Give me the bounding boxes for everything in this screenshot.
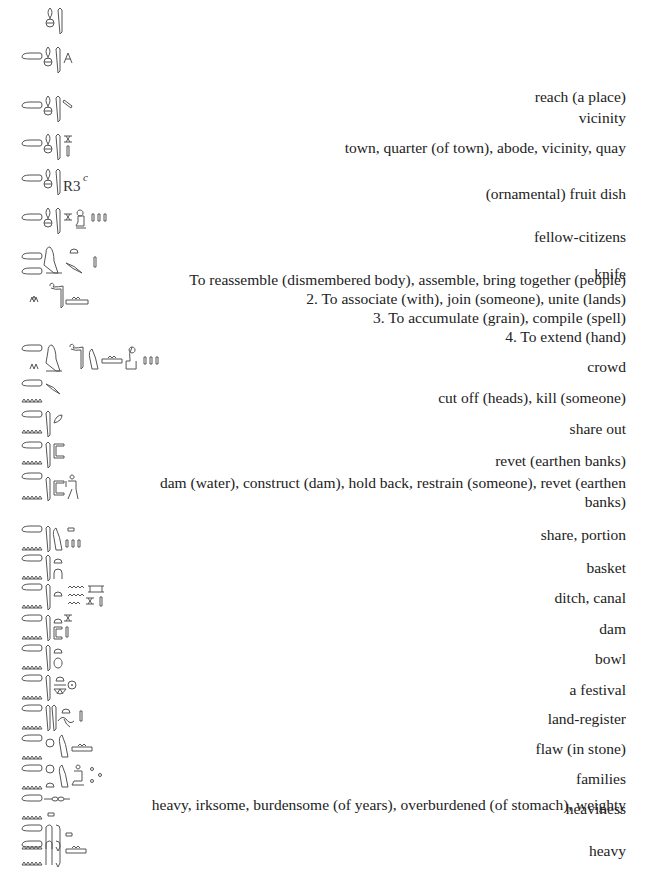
dictionary-entry: flaw (in stone) [0, 733, 647, 767]
definition-text: dam (water), construct (dam), hold back,… [152, 473, 626, 511]
hieroglyph-group [20, 613, 100, 647]
dictionary-entry [0, 6, 647, 36]
definition-text: share out [570, 419, 626, 438]
hieroglyph-canal-icon [20, 582, 120, 612]
definition-text: heavy, irksome, burdensome (of years), o… [152, 795, 626, 814]
dictionary-entry: a festival [0, 673, 647, 707]
hieroglyph-stroke-icon [20, 94, 110, 124]
definition-line: To reassemble (dismembered body), assemb… [189, 270, 626, 289]
hieroglyph-group [20, 643, 100, 677]
hieroglyph-group [20, 582, 120, 616]
hieroglyph-group [20, 266, 110, 350]
hieroglyph-legs-water-icon [20, 839, 110, 869]
dictionary-entry: heavy [0, 833, 647, 867]
definition-text: a festival [570, 680, 626, 699]
hieroglyph-portion-icon [20, 524, 110, 554]
hieroglyph-leaf-icon [20, 409, 100, 439]
hieroglyph-group [20, 793, 100, 827]
dictionary-entry: land-register [0, 703, 647, 737]
definition-text: (ornamental) fruit dish [486, 184, 626, 203]
dictionary-page: reach (a place) vicinity town, quarter (… [0, 0, 647, 873]
definition-text: revet (earthen banks) [495, 451, 626, 470]
dictionary-entry: families [0, 763, 647, 797]
hieroglyph-group [20, 132, 110, 172]
hieroglyph-group [20, 206, 140, 246]
definition-text: families [576, 769, 626, 788]
hieroglyph-town-icon [20, 132, 110, 162]
hieroglyph-group [20, 409, 100, 443]
dictionary-entry: vicinity [0, 94, 647, 134]
hieroglyph-citizens-icon [20, 206, 140, 236]
hieroglyph-group: R3 c [20, 167, 110, 207]
hieroglyph-group [20, 703, 110, 737]
hieroglyph-basket-icon [20, 553, 100, 583]
svg-text:R3: R3 [63, 178, 81, 194]
dictionary-entry: reach (a place) [0, 45, 647, 95]
definition-line: 3. To accumulate (grain), compile (spell… [189, 308, 626, 327]
dictionary-entry: dam (water), construct (dam), hold back,… [0, 471, 647, 521]
hieroglyph-crowd-icon [20, 343, 220, 375]
ankh-reed-icon [44, 6, 84, 36]
definition-text: share, portion [541, 525, 626, 544]
definition-text: flaw (in stone) [536, 739, 626, 758]
definition-text: vicinity [579, 108, 626, 127]
definition-line: 2. To associate (with), join (someone), … [189, 289, 626, 308]
dictionary-entry: share out [0, 409, 647, 443]
hieroglyph-group [20, 45, 110, 95]
definition-block: To reassemble (dismembered body), assemb… [189, 270, 626, 346]
definition-text: land-register [548, 709, 626, 728]
definition-text: dam [599, 619, 626, 638]
dictionary-entry: crowd [0, 343, 647, 383]
hieroglyph-group [20, 471, 100, 521]
hieroglyph-wall-man-icon [20, 471, 100, 505]
svg-text:c: c [83, 171, 88, 183]
dictionary-entry: To reassemble (dismembered body), assemb… [0, 266, 647, 350]
hieroglyph-rope-icon [20, 703, 110, 733]
dictionary-entry: fellow-citizens [0, 206, 647, 246]
hieroglyph-group [20, 94, 110, 134]
hieroglyph-legs-icon [20, 45, 110, 75]
hieroglyph-wall-icon [20, 440, 100, 470]
hieroglyph-dam-icon [20, 613, 100, 643]
hieroglyph-group [20, 839, 110, 873]
hieroglyph-r3c-icon: R3 c [20, 167, 110, 199]
hieroglyph-group [20, 733, 110, 767]
hieroglyph-families-icon [20, 763, 140, 793]
definition-text: basket [586, 558, 626, 577]
hieroglyph-group [44, 6, 84, 36]
dictionary-entry: R3 c (ornamental) fruit dish [0, 167, 647, 207]
definition-text: town, quarter (of town), abode, vicinity… [345, 138, 626, 157]
dictionary-entry: dam [0, 613, 647, 647]
hieroglyph-flaw-icon [20, 733, 110, 763]
definition-text: bowl [595, 649, 626, 668]
hieroglyph-festival-icon [20, 673, 100, 703]
definition-text: cut off (heads), kill (someone) [438, 388, 626, 407]
hieroglyph-group [20, 673, 100, 707]
definition-text: heavy [589, 841, 626, 860]
hieroglyph-string-icon [20, 793, 100, 823]
definition-text: ditch, canal [555, 588, 626, 607]
hieroglyph-reeds-snake-icon [20, 266, 110, 326]
hieroglyph-group [20, 343, 220, 383]
dictionary-entry: bowl [0, 643, 647, 677]
definition-text: fellow-citizens [534, 227, 626, 246]
hieroglyph-group [20, 440, 100, 474]
hieroglyph-water-knife-icon [20, 378, 100, 408]
hieroglyph-bowl-icon [20, 643, 100, 673]
dictionary-entry: revet (earthen banks) [0, 440, 647, 474]
dictionary-entry: ditch, canal [0, 582, 647, 616]
dictionary-entry: town, quarter (of town), abode, vicinity… [0, 132, 647, 172]
definition-text: crowd [587, 357, 626, 376]
hieroglyph-group [20, 763, 140, 797]
